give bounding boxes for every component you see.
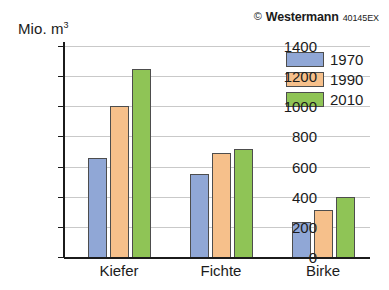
x-axis-category-label: Kiefer — [99, 262, 138, 279]
y-axis-tick — [58, 257, 65, 258]
legend-label: 1970 — [330, 52, 363, 67]
legend-label: 2010 — [330, 92, 363, 107]
y-axis-tick — [58, 227, 65, 228]
copyright-icon: © — [254, 10, 262, 22]
chart-figure: { "credit": { "mark": "©", "publisher": … — [0, 0, 389, 290]
bar — [132, 69, 151, 257]
y-axis-tick — [58, 167, 65, 168]
y-axis-tick-label: 400 — [292, 188, 317, 205]
y-axis-tick-label: 800 — [292, 128, 317, 145]
copyright-credit: © Westermann 40145EX — [254, 10, 379, 24]
x-axis-line — [64, 257, 370, 259]
y-axis-tick — [58, 136, 65, 137]
y-axis-tick — [58, 46, 65, 47]
gridline — [64, 46, 370, 47]
publisher-name: Westermann — [266, 10, 339, 24]
y-axis-tick — [58, 76, 65, 77]
y-axis-tick — [58, 197, 65, 198]
bar — [88, 158, 107, 257]
bar — [336, 197, 355, 257]
y-axis-tick-label: 1400 — [284, 38, 317, 55]
bar — [234, 149, 253, 258]
y-axis-tick — [58, 106, 65, 107]
y-axis-tick-label: 200 — [292, 218, 317, 235]
y-axis-tick-label: 1200 — [284, 68, 317, 85]
bar — [190, 174, 209, 257]
bar — [110, 106, 129, 257]
bar — [212, 153, 231, 257]
x-axis-category-label: Fichte — [201, 262, 242, 279]
y-axis-unit-label: Mio. m3 — [18, 20, 69, 37]
publisher-code: 40145EX — [343, 13, 379, 23]
legend-label: 1990 — [330, 72, 363, 87]
y-axis-line — [63, 42, 65, 257]
y-axis-tick-label: 600 — [292, 158, 317, 175]
y-axis-unit-exponent: 3 — [64, 20, 69, 30]
x-axis-category-label: Birke — [306, 262, 340, 279]
y-axis-unit-prefix: Mio. m — [18, 20, 64, 37]
y-axis-tick-label: 1000 — [284, 98, 317, 115]
